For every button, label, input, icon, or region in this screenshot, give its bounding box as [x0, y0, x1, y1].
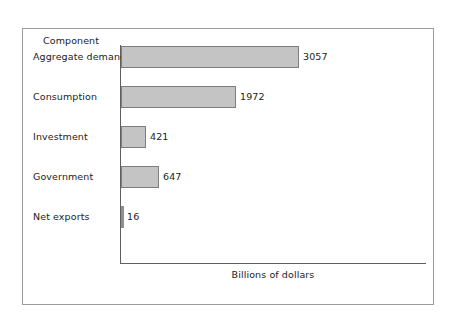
bar-value-label: 3057: [303, 46, 328, 68]
y-axis-line: [120, 45, 121, 264]
figure-canvas: Component Aggregate demand 3057 Consumpt…: [0, 0, 463, 328]
x-axis-line: [120, 263, 426, 264]
bar-value-label: 421: [150, 126, 168, 148]
category-label: Consumption: [33, 86, 117, 108]
plot-area: Aggregate demand 3057 Consumption 1972 I…: [23, 29, 435, 306]
category-label: Investment: [33, 126, 117, 148]
bar-value-label: 1972: [240, 86, 265, 108]
bar-aggregate-demand[interactable]: [121, 46, 299, 68]
bar-government[interactable]: [121, 166, 159, 188]
bar-value-label: 16: [127, 206, 139, 228]
category-label: Net exports: [33, 206, 117, 228]
bar-value-label: 647: [163, 166, 181, 188]
x-axis-title: Billions of dollars: [120, 269, 426, 280]
bar-net-exports[interactable]: [121, 206, 124, 228]
bar-consumption[interactable]: [121, 86, 236, 108]
bar-investment[interactable]: [121, 126, 146, 148]
category-label: Government: [33, 166, 117, 188]
chart-frame: Component Aggregate demand 3057 Consumpt…: [22, 28, 434, 305]
category-label: Aggregate demand: [33, 46, 117, 68]
